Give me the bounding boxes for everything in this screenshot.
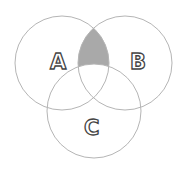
venn-diagram: A B C bbox=[0, 0, 185, 171]
label-c: C bbox=[84, 116, 99, 140]
label-a: A bbox=[50, 50, 67, 74]
label-b: B bbox=[130, 50, 146, 74]
